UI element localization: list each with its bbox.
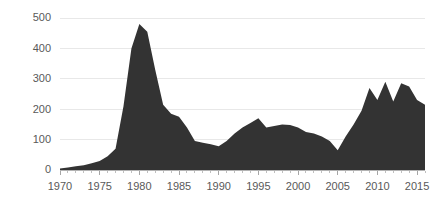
y-tick-label-100: 100 bbox=[33, 133, 51, 145]
x-tick-label-2010: 2010 bbox=[365, 180, 389, 192]
y-axis-tick-labels: 0100200300400500 bbox=[33, 11, 51, 175]
x-tick-label-2000: 2000 bbox=[286, 180, 310, 192]
x-tick-label-1990: 1990 bbox=[206, 180, 230, 192]
x-tick-label-1980: 1980 bbox=[127, 180, 151, 192]
x-tick-label-1985: 1985 bbox=[167, 180, 191, 192]
y-tick-label-400: 400 bbox=[33, 42, 51, 54]
chart-container: 0100200300400500 19701975198019851990199… bbox=[0, 0, 430, 214]
area-series-path bbox=[60, 24, 425, 170]
y-tick-label-200: 200 bbox=[33, 103, 51, 115]
x-tick-label-1975: 1975 bbox=[87, 180, 111, 192]
y-tick-label-300: 300 bbox=[33, 72, 51, 84]
x-tick-label-1995: 1995 bbox=[246, 180, 270, 192]
x-axis-ticks bbox=[60, 171, 425, 175]
y-tick-label-0: 0 bbox=[45, 163, 51, 175]
x-axis-tick-labels: 1970197519801985199019952000200520102015 bbox=[48, 180, 430, 192]
x-tick-label-2015: 2015 bbox=[405, 180, 429, 192]
x-axis bbox=[60, 171, 425, 176]
x-tick-label-1970: 1970 bbox=[48, 180, 72, 192]
area-chart: 0100200300400500 19701975198019851990199… bbox=[0, 0, 430, 214]
x-tick-label-2005: 2005 bbox=[325, 180, 349, 192]
y-tick-label-500: 500 bbox=[33, 11, 51, 23]
